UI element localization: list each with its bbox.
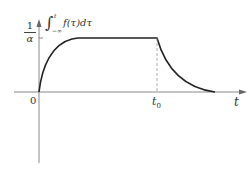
x-axis-arrow-icon	[239, 90, 247, 95]
response-curve	[39, 38, 215, 92]
y-axis-arrow-icon	[37, 19, 42, 27]
level-numerator: 1	[23, 21, 37, 31]
integral-lower-limit: −∞	[52, 27, 62, 34]
integrand: f(τ)dτ	[63, 17, 92, 28]
integral-response-diagram: 1 α ∫ t −∞ f(τ)dτ 0 t0 t	[0, 0, 251, 169]
level-label: 1 α	[23, 21, 37, 44]
origin-label: 0	[30, 96, 36, 106]
x-axis-label: t	[234, 96, 239, 108]
level-denominator: α	[23, 34, 37, 44]
t0-label: t0	[152, 96, 161, 110]
plot-svg	[0, 0, 251, 169]
integral-upper-limit: t	[54, 12, 56, 19]
t0-label-subscript: 0	[156, 102, 160, 110]
